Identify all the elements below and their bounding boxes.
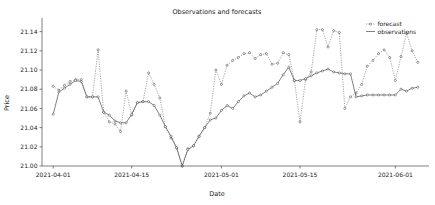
x-tick-label: 2021-04-01 xyxy=(36,171,71,178)
data-point-forecast xyxy=(148,72,150,74)
data-point-observations xyxy=(75,80,77,82)
data-point-observations xyxy=(372,94,374,96)
data-point-forecast xyxy=(327,46,329,48)
data-point-observations xyxy=(226,104,228,106)
data-point-forecast xyxy=(108,121,110,123)
data-point-observations xyxy=(254,96,256,98)
data-point-observations xyxy=(260,94,262,96)
data-point-observations xyxy=(80,80,82,82)
data-point-forecast xyxy=(243,53,245,55)
y-tick-label: 21.08 xyxy=(20,85,37,92)
data-point-forecast xyxy=(299,121,301,123)
data-point-forecast xyxy=(417,61,419,63)
data-point-observations xyxy=(86,96,88,98)
data-point-observations xyxy=(108,114,110,116)
data-point-observations xyxy=(164,126,166,128)
data-point-observations xyxy=(52,113,54,115)
data-point-forecast xyxy=(344,107,346,109)
data-point-forecast xyxy=(377,53,379,55)
data-point-forecast xyxy=(282,52,284,54)
data-point-observations xyxy=(310,75,312,77)
data-point-forecast xyxy=(310,71,312,73)
data-point-forecast xyxy=(63,84,65,86)
data-point-forecast xyxy=(316,29,318,31)
data-point-observations xyxy=(355,96,357,98)
data-point-observations xyxy=(349,73,351,75)
data-point-observations xyxy=(97,96,99,98)
data-point-forecast xyxy=(333,30,335,32)
data-point-forecast xyxy=(232,59,234,61)
x-tick-label: 2021-06-01 xyxy=(378,171,413,178)
data-point-observations xyxy=(288,66,290,68)
data-point-observations xyxy=(119,122,121,124)
legend-label-observations: observations xyxy=(378,28,417,35)
data-point-forecast xyxy=(69,80,71,82)
y-tick-label: 21.02 xyxy=(20,143,37,150)
data-point-observations xyxy=(63,87,65,89)
data-point-forecast xyxy=(349,96,351,98)
data-point-observations xyxy=(192,145,194,147)
y-tick-label: 21.10 xyxy=(20,66,37,73)
data-point-forecast xyxy=(215,69,217,71)
series-layer xyxy=(52,29,419,167)
data-point-observations xyxy=(305,78,307,80)
y-tick-label: 21.14 xyxy=(20,28,37,35)
chart-title: Observations and forecasts xyxy=(172,8,262,16)
data-point-forecast xyxy=(366,65,368,67)
data-point-observations xyxy=(389,94,391,96)
data-point-forecast xyxy=(260,54,262,56)
data-point-forecast xyxy=(265,53,267,55)
data-point-observations xyxy=(243,95,245,97)
data-point-observations xyxy=(361,95,363,97)
x-tick-label: 2021-05-15 xyxy=(283,171,318,178)
data-point-observations xyxy=(333,71,335,73)
chart-legend[interactable]: forecastobservations xyxy=(366,20,416,34)
data-point-observations xyxy=(187,149,189,151)
data-point-observations xyxy=(248,92,250,94)
data-point-observations xyxy=(176,147,178,149)
data-point-observations xyxy=(232,107,234,109)
data-point-observations xyxy=(377,94,379,96)
data-point-observations xyxy=(299,80,301,82)
data-point-forecast xyxy=(288,54,290,56)
data-point-forecast xyxy=(389,56,391,58)
data-point-forecast xyxy=(226,64,228,66)
data-point-observations xyxy=(170,135,172,137)
data-point-observations xyxy=(142,101,144,103)
x-axis-title: Date xyxy=(209,190,225,198)
data-point-forecast xyxy=(52,85,54,87)
series-line-forecast xyxy=(53,30,418,166)
chart-figure: Observations and forecasts Price Date 21… xyxy=(0,0,435,205)
data-point-forecast xyxy=(209,112,211,114)
data-point-observations xyxy=(58,91,60,93)
data-point-forecast xyxy=(372,59,374,61)
data-point-forecast xyxy=(248,52,250,54)
y-tick-label: 21.06 xyxy=(20,105,37,112)
data-point-observations xyxy=(327,68,329,70)
y-tick-label: 21.00 xyxy=(20,162,37,169)
data-point-observations xyxy=(411,87,413,89)
x-tick-label: 2021-05-01 xyxy=(204,171,239,178)
data-point-observations xyxy=(400,88,402,90)
y-tick-label: 21.12 xyxy=(20,47,37,54)
observations-and-forecasts-chart: Observations and forecasts Price Date 21… xyxy=(0,0,435,205)
data-point-observations xyxy=(204,127,206,129)
y-tick-label: 21.04 xyxy=(20,124,37,131)
data-point-observations xyxy=(136,102,138,104)
data-point-observations xyxy=(321,70,323,72)
x-tick-label: 2021-04-15 xyxy=(114,171,149,178)
data-point-observations xyxy=(383,94,385,96)
data-point-observations xyxy=(271,86,273,88)
data-point-forecast xyxy=(114,123,116,125)
data-point-observations xyxy=(91,96,93,98)
data-point-forecast xyxy=(400,56,402,58)
data-point-observations xyxy=(394,94,396,96)
data-point-observations xyxy=(153,104,155,106)
data-point-forecast xyxy=(125,90,127,92)
data-point-observations xyxy=(293,80,295,82)
series-line-observations xyxy=(53,67,418,166)
data-point-observations xyxy=(366,94,368,96)
data-point-observations xyxy=(159,114,161,116)
data-point-observations xyxy=(220,109,222,111)
data-point-forecast xyxy=(411,50,413,52)
